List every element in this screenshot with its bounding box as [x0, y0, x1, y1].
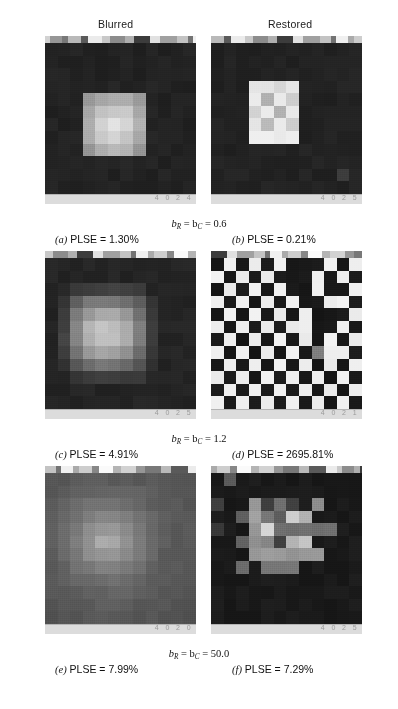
pixel-cell: [45, 333, 58, 346]
pixel-cell: [70, 536, 83, 549]
pixel-cell: [133, 611, 146, 624]
pixel-cell: [349, 384, 362, 397]
pixel-cell: [146, 473, 159, 486]
pixel-cell: [95, 511, 108, 524]
pixel-cell: [312, 599, 325, 612]
scan-strip-segment: [268, 36, 277, 43]
pixel-cell: [146, 384, 159, 397]
pixel-cell: [45, 371, 58, 384]
pixel-cell: [211, 321, 224, 334]
pixel-cell: [274, 536, 287, 549]
pixel-cell: [249, 308, 262, 321]
pixel-cell: [286, 486, 299, 499]
pixel-cell: [120, 346, 133, 359]
pixel-cell: [236, 131, 249, 144]
pixel-cell: [146, 131, 159, 144]
pixel-cell: [171, 561, 184, 574]
caption-b: (b) PLSE = 0.21%: [232, 233, 316, 245]
pixel-cell: [236, 93, 249, 106]
pixel-cell: [349, 574, 362, 587]
pixel-cell: [95, 486, 108, 499]
pixel-cell: [171, 271, 184, 284]
caption-metric-b: PLSE = 0.21%: [247, 233, 316, 245]
scan-strip-segment: [301, 251, 308, 258]
pixel-cell: [183, 283, 196, 296]
scan-strip-segment: [303, 36, 320, 43]
pixel-cell: [171, 359, 184, 372]
pixel-cell: [171, 156, 184, 169]
pixel-cell: [211, 523, 224, 536]
image-panel-e: [45, 473, 196, 624]
pixel-cell: [261, 43, 274, 56]
pixel-cell: [224, 308, 237, 321]
pixel-cell: [324, 106, 337, 119]
pixel-cell: [261, 156, 274, 169]
pixel-cell: [45, 56, 58, 69]
pixel-cell: [95, 574, 108, 587]
pixel-cell: [211, 384, 224, 397]
pixel-cell: [211, 473, 224, 486]
pixel-cell: [58, 384, 71, 397]
pixel-cell: [324, 498, 337, 511]
pixel-cell: [299, 611, 312, 624]
scan-strip-segment: [237, 251, 254, 258]
pixel-cell: [261, 384, 274, 397]
pixel-cell: [58, 118, 71, 131]
pixel-cell: [349, 131, 362, 144]
pixel-cell: [224, 473, 237, 486]
pixel-cell: [83, 359, 96, 372]
pixel-cell: [83, 156, 96, 169]
pixel-cell: [171, 384, 184, 397]
pixel-cell: [337, 131, 350, 144]
pixel-cell: [120, 68, 133, 81]
pixel-cell: [133, 43, 146, 56]
pixel-cell: [337, 561, 350, 574]
pixel-cell: [312, 181, 325, 194]
pixel-cell: [158, 359, 171, 372]
pixel-cell: [146, 498, 159, 511]
pixel-cell: [146, 599, 159, 612]
scan-strip-segment: [154, 251, 167, 258]
pixel-cell: [133, 169, 146, 182]
pixel-cell: [274, 384, 287, 397]
pixel-cell: [249, 258, 262, 271]
pixel-cell: [324, 93, 337, 106]
scan-strip-segment: [61, 466, 73, 473]
scan-strip-segment: [99, 466, 113, 473]
pixel-cell: [274, 68, 287, 81]
pixel-cell: [183, 371, 196, 384]
pixel-cell: [58, 181, 71, 194]
pixel-cell: [312, 498, 325, 511]
pixel-cell: [133, 181, 146, 194]
pixel-cell: [70, 68, 83, 81]
pixel-cell: [211, 486, 224, 499]
pixel-cell: [236, 68, 249, 81]
pixel-cell: [108, 611, 121, 624]
pixel-cell: [211, 56, 224, 69]
pixel-cell: [236, 574, 249, 587]
pixel-cell: [95, 473, 108, 486]
scan-strip-bottom-a: 4 0 2 4: [45, 194, 196, 204]
pixel-cell: [349, 371, 362, 384]
pixel-cell: [274, 81, 287, 94]
pixel-cell: [337, 308, 350, 321]
pixel-cell: [108, 68, 121, 81]
pixel-cell: [45, 359, 58, 372]
pixel-cell: [324, 169, 337, 182]
pixel-cell: [146, 271, 159, 284]
pixel-cell: [83, 169, 96, 182]
pixel-cell: [224, 523, 237, 536]
pixel-cell: [236, 333, 249, 346]
pixel-cell: [120, 131, 133, 144]
pixel-cell: [274, 144, 287, 157]
scan-strip-segment: [177, 36, 188, 43]
pixel-cell: [349, 548, 362, 561]
pixel-cell: [95, 384, 108, 397]
pixel-cell: [45, 144, 58, 157]
caption-c: (c) PLSE = 4.91%: [55, 448, 138, 460]
scan-strip-segment: [227, 251, 237, 258]
caption-label-a: (a): [55, 234, 67, 245]
pixel-cell: [337, 511, 350, 524]
pixel-cell: [58, 81, 71, 94]
pixel-cell: [133, 118, 146, 131]
